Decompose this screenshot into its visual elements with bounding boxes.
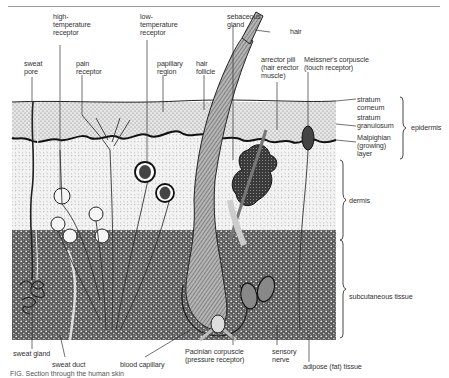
label-line: pore [24, 68, 42, 76]
label-dermis: dermis [349, 197, 370, 205]
label-stratum-granulosum: stratum granulosum [357, 114, 394, 130]
label-pacinian-corpuscle: Pacinian corpuscle (pressure receptor) [185, 348, 244, 364]
label-sweat-duct: sweat duct [52, 361, 85, 369]
label-line: (touch receptor) [304, 64, 369, 72]
label-malpighian-layer: Malpighian (growing) layer [357, 134, 391, 159]
skin-cross-section-illustration [0, 0, 449, 378]
label-arrector-pili: arrector pili (hair erector muscle) [261, 56, 298, 81]
label-line: corneum [357, 104, 384, 112]
label-sebaceous-gland: sebaceous gland [227, 13, 261, 29]
label-line: granulosum [357, 122, 394, 130]
label-pain-receptor: pain receptor [76, 60, 102, 76]
subcutaneous-layer [12, 230, 336, 340]
label-low-temperature-receptor: low- temperature receptor [140, 13, 178, 38]
label-line: gland [227, 21, 261, 29]
label-sensory-nerve: sensory nerve [272, 348, 296, 364]
label-stratum-corneum: stratum corneum [357, 96, 384, 112]
label-meissners-corpuscle: Meissner's corpuscle (touch receptor) [304, 56, 369, 72]
label-line: nerve [272, 356, 296, 364]
label-high-temperature-receptor: high- temperature receptor [53, 13, 91, 38]
meissners-corpuscle [302, 126, 314, 150]
label-hair: hair [290, 28, 302, 36]
label-sweat-gland: sweat gland [13, 350, 50, 358]
label-line: follicle [196, 68, 215, 76]
label-line: receptor [76, 68, 102, 76]
label-line: layer [357, 150, 391, 158]
label-hair-follicle: hair follicle [196, 60, 215, 76]
label-line: region [157, 68, 183, 76]
label-line: (pressure receptor) [185, 356, 244, 364]
label-line: receptor [140, 29, 178, 37]
label-blood-capillary: blood capillary [120, 361, 164, 369]
label-papillary-region: papillary region [157, 60, 183, 76]
label-epidermis: epidermis [411, 124, 441, 132]
label-line: receptor [53, 29, 91, 37]
label-line: muscle) [261, 72, 298, 80]
label-sweat-pore: sweat pore [24, 60, 42, 76]
label-adipose-tissue: adipose (fat) tissue [303, 363, 362, 371]
figure-caption: FIG. Section through the human skin [10, 370, 124, 377]
hair-papilla [211, 315, 225, 333]
label-subcutaneous-tissue: subcutaneous tissue [349, 293, 413, 301]
